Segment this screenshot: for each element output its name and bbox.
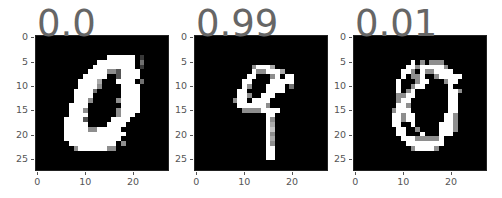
y-tick-label: 15 [326,105,346,115]
x-tick-label: 10 [75,177,95,187]
panel-title: 0.0 [37,4,96,44]
x-tick-label: 10 [234,177,254,187]
y-tick-label: 10 [326,81,346,91]
y-tick-label: 15 [8,105,28,115]
y-tick-label: 10 [8,81,28,91]
x-tick-label: 20 [441,177,461,187]
y-tick-label: 25 [326,154,346,164]
panel-title: 0.99 [196,4,278,44]
x-tick-label: 0 [186,177,206,187]
x-tick-label: 20 [123,177,143,187]
y-tick-label: 15 [167,105,187,115]
y-tick-label: 25 [8,154,28,164]
y-tick-label: 20 [167,130,187,140]
y-tick-label: 0 [326,32,346,42]
y-tick-label: 25 [167,154,187,164]
y-tick-label: 0 [8,32,28,42]
panel-title: 0.01 [355,4,437,44]
y-tick-label: 20 [326,130,346,140]
y-tick-label: 5 [167,57,187,67]
x-tick-label: 0 [27,177,47,187]
digit-image [353,35,487,171]
digit-image [35,35,169,171]
x-tick-label: 10 [393,177,413,187]
digit-image [194,35,328,171]
y-tick-label: 10 [167,81,187,91]
x-tick-label: 20 [282,177,302,187]
y-tick-label: 0 [167,32,187,42]
y-tick-label: 20 [8,130,28,140]
y-tick-label: 5 [8,57,28,67]
x-tick-label: 0 [345,177,365,187]
y-tick-label: 5 [326,57,346,67]
